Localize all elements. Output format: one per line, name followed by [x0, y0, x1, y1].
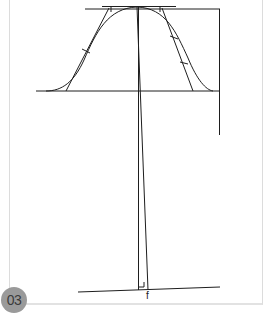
tick-mark-right-upper [170, 36, 178, 39]
point-label-f: f [146, 290, 149, 301]
right-tangent-line [162, 8, 193, 91]
figure-number-badge: 03 [1, 287, 27, 313]
right-angle-marker [139, 282, 144, 287]
tick-mark-right-lower [180, 62, 188, 64]
left-tangent-line [66, 8, 109, 91]
bottom-line [78, 287, 220, 292]
